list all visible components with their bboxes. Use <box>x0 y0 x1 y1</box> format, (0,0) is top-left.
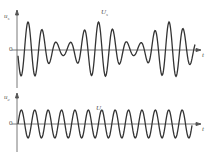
bottom-t-axis-label: t <box>202 125 204 133</box>
top-curve-label: Us <box>101 8 108 17</box>
top-beat-waveform <box>18 22 195 76</box>
bottom-y-axis-label: uc <box>4 93 10 102</box>
top-y-axis-label: us <box>4 12 9 21</box>
top-zero-label: 0 <box>9 45 13 53</box>
bottom-curve-label: Uc <box>96 104 103 113</box>
bottom-zero-label: 0 <box>9 119 13 127</box>
top-t-axis-label: t <box>202 51 204 59</box>
waveform-diagram <box>0 0 214 157</box>
bottom-axes <box>12 93 201 152</box>
